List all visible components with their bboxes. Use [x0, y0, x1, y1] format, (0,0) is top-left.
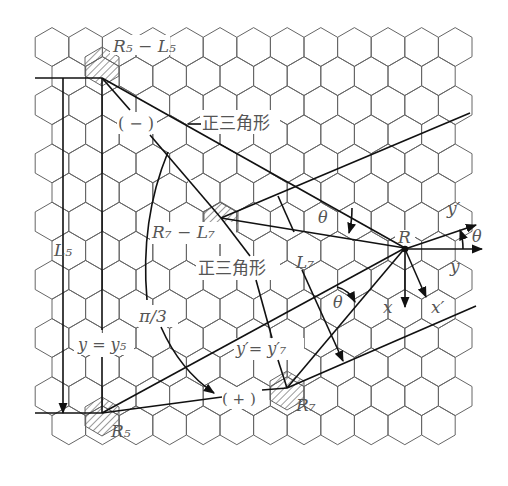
line-triangle-mid-to-y7	[256, 280, 272, 338]
hex-cell	[287, 115, 321, 154]
hex-lattice-diagram: R₅ − L₅ ( − ) 正三角形 R₇ − L₇ 正三角形 θ θ θ R …	[0, 0, 508, 486]
hex-cell	[422, 348, 456, 387]
label-minus: ( − )	[118, 114, 154, 133]
hex-cell	[52, 115, 86, 154]
hex-cell	[321, 115, 355, 154]
hex-cell	[119, 173, 153, 212]
hex-cell	[136, 260, 170, 299]
hex-cell	[69, 86, 103, 125]
theta-arc-upper	[349, 208, 352, 233]
label-y-prime-eq-y7: y′= y′₇	[235, 339, 287, 358]
hex-cell	[304, 86, 338, 125]
hex-cell	[321, 57, 355, 96]
label-theta-right: θ	[472, 227, 482, 246]
label-r5-l5: R₅ − L₅	[112, 36, 176, 56]
hex-cell	[69, 260, 103, 299]
label-l7: L₇	[295, 252, 314, 272]
hex-cell	[338, 202, 372, 241]
hex-cell	[371, 86, 405, 125]
hex-cell	[186, 348, 220, 387]
hex-cell	[153, 57, 187, 96]
hex-cell	[388, 115, 422, 154]
hex-cell	[354, 231, 388, 270]
hex-cell	[354, 57, 388, 96]
hex-cell	[422, 406, 456, 445]
line-l7-upper	[278, 196, 294, 232]
hex-cell	[405, 260, 439, 299]
hex-cell	[388, 57, 422, 96]
hex-cell	[52, 290, 86, 329]
label-y: y	[449, 256, 460, 276]
arrow-l7	[302, 270, 343, 361]
hex-cell	[186, 406, 220, 445]
x-prime-axis	[405, 249, 426, 297]
hex-cell	[321, 348, 355, 387]
hex-cell	[338, 144, 372, 183]
hex-cell	[438, 319, 472, 358]
hex-cell	[338, 86, 372, 125]
hex-cell	[405, 86, 439, 125]
hex-cell	[388, 173, 422, 212]
point-r	[403, 247, 408, 252]
label-r: R	[397, 227, 411, 247]
label-y-eq-y5: y = y₅	[77, 335, 127, 354]
hex-cell	[203, 319, 237, 358]
hex-cell	[35, 28, 69, 67]
label-x-prime: x′	[431, 297, 445, 317]
hex-cell	[102, 144, 136, 183]
hex-cell	[220, 57, 254, 96]
hex-cell	[338, 319, 372, 358]
hex-cell	[338, 377, 372, 416]
hex-cell	[220, 290, 254, 329]
hex-cell	[304, 28, 338, 67]
hex-cell	[136, 144, 170, 183]
hex-cell	[371, 28, 405, 67]
hex-cell	[371, 144, 405, 183]
hex-cell	[186, 57, 220, 96]
hex-cell	[388, 406, 422, 445]
hex-cell	[388, 348, 422, 387]
label-l5: L₅	[53, 240, 72, 260]
label-triangle-top: 正三角形	[202, 113, 270, 133]
hex-cell	[371, 319, 405, 358]
hex-cell	[203, 28, 237, 67]
hex-cell	[102, 260, 136, 299]
hex-cell	[287, 57, 321, 96]
hex-cell	[69, 144, 103, 183]
label-x: x	[383, 297, 393, 317]
hex-cell	[254, 290, 288, 329]
hex-cell	[438, 28, 472, 67]
label-theta-upper: θ	[318, 208, 328, 227]
hex-cell	[338, 28, 372, 67]
hex-cell	[254, 406, 288, 445]
hex-cell	[354, 406, 388, 445]
hex-cell	[203, 144, 237, 183]
hex-cell	[52, 57, 86, 96]
label-y-prime: y′	[446, 198, 461, 218]
hex-cell	[237, 28, 271, 67]
hex-cell	[170, 377, 204, 416]
hex-cell	[52, 173, 86, 212]
hex-cell	[287, 173, 321, 212]
hex-cell	[321, 406, 355, 445]
hex-cell	[102, 202, 136, 241]
hex-cell	[270, 202, 304, 241]
label-plus: ( + )	[222, 390, 256, 408]
hex-cell	[405, 144, 439, 183]
hex-cell	[136, 377, 170, 416]
label-triangle-mid: 正三角形	[198, 258, 266, 278]
label-pi-over-3: π/3	[138, 306, 167, 326]
hex-cell	[438, 144, 472, 183]
label-r5: R₅	[110, 421, 131, 441]
arc-pi-over-3-lower	[161, 327, 214, 393]
hex-cell	[438, 377, 472, 416]
hex-cell	[304, 144, 338, 183]
hex-cell	[220, 406, 254, 445]
hex-cell	[405, 377, 439, 416]
hex-cell	[321, 173, 355, 212]
hex-cell	[153, 348, 187, 387]
hex-cell	[270, 144, 304, 183]
hex-cell	[371, 377, 405, 416]
line-r7-parallel	[287, 306, 476, 388]
hex-cell	[354, 115, 388, 154]
